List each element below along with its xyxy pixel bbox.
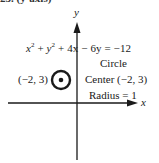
point-label: (−2, 3) bbox=[18, 73, 48, 85]
equation: x2 + y2 + 4x − 6y = −12 bbox=[26, 41, 131, 54]
shape-label: Circle bbox=[100, 57, 127, 69]
y-axis-label: y bbox=[74, 6, 79, 18]
eq-rest: + 4x − 6y = −12 bbox=[55, 42, 131, 54]
eq-plus: + bbox=[35, 42, 47, 54]
y-axis-arrow-icon bbox=[74, 22, 81, 33]
center-label: Center (−2, 3) bbox=[85, 73, 147, 85]
center-point-icon bbox=[59, 78, 64, 83]
x-axis-label: x bbox=[141, 96, 146, 108]
radius-label: Radius = 1 bbox=[89, 89, 137, 101]
